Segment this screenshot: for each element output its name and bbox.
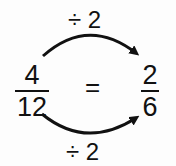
right-fraction: 2 6 [141, 62, 159, 121]
bottom-arrow-icon [42, 114, 136, 133]
top-arrow-icon [43, 35, 136, 56]
left-denominator: 12 [15, 94, 49, 121]
equivalent-fractions-diagram: ÷ 2 4 12 = 2 6 ÷ 2 [0, 0, 176, 166]
right-numerator: 2 [141, 62, 159, 89]
equals-sign: = [85, 74, 100, 100]
bottom-operation-label: ÷ 2 [66, 140, 99, 164]
right-denominator: 6 [141, 94, 159, 121]
left-numerator: 4 [15, 62, 49, 89]
top-operation-label: ÷ 2 [68, 8, 101, 32]
left-fraction: 4 12 [15, 62, 49, 121]
